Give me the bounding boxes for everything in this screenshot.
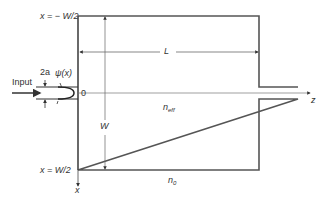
x-axis-label: x xyxy=(75,186,80,195)
half-width-label: 2a xyxy=(40,68,50,77)
input-label: Input xyxy=(12,78,32,87)
n0-label: n0 xyxy=(168,176,176,186)
top-boundary-label: x = − W/2 xyxy=(40,12,79,21)
bottom-boundary-label: x = W/2 xyxy=(40,166,71,175)
width-label: W xyxy=(100,122,109,131)
n-eff-label: neff xyxy=(163,103,175,113)
field-label: ψ(x) xyxy=(55,69,72,78)
z-axis-label: z xyxy=(311,96,316,105)
length-label: L xyxy=(164,47,169,56)
field-profile-curve xyxy=(58,87,74,99)
origin-label: 0 xyxy=(81,89,86,98)
